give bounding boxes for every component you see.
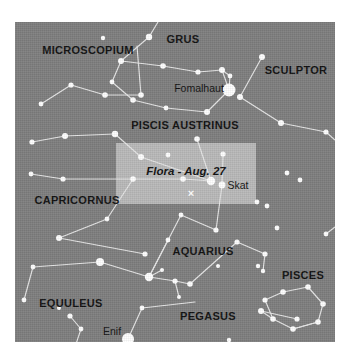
star-fomalhaut [223, 84, 236, 97]
star-mic3 [138, 92, 144, 98]
star-peg3 [294, 316, 299, 321]
star-aq10 [160, 268, 164, 272]
label-capricornus: CAPRICORNUS [34, 194, 119, 206]
star-pa6 [110, 80, 115, 85]
star-misc11 [220, 151, 225, 156]
star-aq2 [213, 227, 218, 232]
star-mic1 [68, 82, 73, 87]
star-misc6 [101, 36, 105, 40]
label-fomalhaut: Fomalhaut [174, 82, 224, 94]
star-cap4 [130, 176, 136, 182]
star-cap7 [60, 176, 65, 181]
star-aq12 [187, 281, 193, 287]
star-misc8 [227, 338, 231, 342]
star-peg2 [258, 308, 264, 314]
star-cap11 [142, 251, 147, 256]
label-equuleus: EQUULEUS [39, 297, 103, 309]
label-skat: Skat [227, 179, 248, 191]
star-aq7 [234, 239, 239, 244]
star-peg1 [140, 306, 145, 311]
star-aq5 [255, 200, 260, 205]
star-pi6 [270, 316, 276, 322]
label-pegasus: PEGASUS [180, 310, 236, 322]
star-aq11 [172, 278, 177, 283]
label-piscis-austrinus: PISCIS AUSTRINUS [131, 119, 239, 131]
label-enif: Enif [103, 325, 121, 337]
star-mic5 [29, 139, 34, 144]
label-microscopium: MICROSCOPIUM [42, 44, 134, 56]
star-pi5 [290, 326, 296, 332]
star-misc4 [275, 226, 280, 231]
star-pa5 [228, 74, 233, 79]
star-scu3 [278, 120, 284, 126]
star-pi1 [280, 289, 286, 295]
star-aq8 [166, 238, 171, 243]
star-scu4 [323, 129, 328, 134]
label-aquarius: AQUARIUS [172, 245, 233, 257]
star-misc1 [324, 232, 329, 237]
star-cap6 [207, 177, 215, 185]
star-pi7 [262, 297, 267, 302]
star-mic4 [39, 102, 44, 107]
star-mic2 [102, 92, 108, 98]
star-cap1 [62, 133, 68, 139]
star-enif [122, 333, 134, 342]
star-cap9 [105, 217, 110, 222]
star-aq1 [194, 136, 200, 142]
star-cap10 [56, 235, 62, 241]
label-pisces: PISCES [282, 269, 324, 281]
flora-object-label: Flora - Aug. 27 [146, 165, 225, 177]
star-pi4 [315, 319, 321, 325]
star-cap5 [180, 176, 186, 182]
star-pi3 [320, 301, 326, 307]
star-aq6 [262, 251, 267, 256]
label-grus: GRUS [167, 33, 200, 45]
star-aq14 [96, 258, 104, 266]
sky-map-plate: MICROSCOPIUMGRUSSCULPTORPISCIS AUSTRINUS… [15, 22, 335, 342]
star-misc3 [285, 171, 290, 176]
star-scu1 [259, 54, 265, 60]
star-equ2 [79, 327, 84, 332]
star-misc5 [216, 264, 220, 268]
star-pa9 [204, 109, 210, 115]
star-aq13 [177, 295, 181, 299]
label-sculptor: SCULPTOR [265, 64, 328, 76]
star-pa2 [160, 63, 166, 69]
star-pa3 [195, 69, 200, 74]
star-aq15 [31, 265, 36, 270]
star-misc10 [166, 153, 171, 158]
star-skat [219, 182, 226, 189]
star-pi8 [261, 269, 265, 273]
star-aq3 [179, 213, 184, 218]
flora-position-marker-icon: × [188, 188, 194, 199]
star-cap3 [138, 154, 144, 160]
star-cap8 [29, 172, 34, 177]
star-equ1 [67, 313, 72, 318]
star-cap2 [112, 131, 118, 137]
star-misc2 [298, 178, 303, 183]
star-pi2 [305, 284, 311, 290]
star-aq4 [265, 204, 270, 209]
star-pa4 [219, 67, 225, 73]
star-pi9 [256, 264, 260, 268]
star-pa8 [164, 106, 169, 111]
star-aq16 [22, 298, 27, 303]
star-grus1 [146, 34, 152, 40]
star-pa1 [118, 58, 124, 64]
star-aq9 [145, 273, 153, 281]
star-scu2 [237, 94, 243, 100]
star-chart-figure: MICROSCOPIUMGRUSSCULPTORPISCIS AUSTRINUS… [0, 0, 350, 357]
star-pa7 [130, 97, 136, 103]
